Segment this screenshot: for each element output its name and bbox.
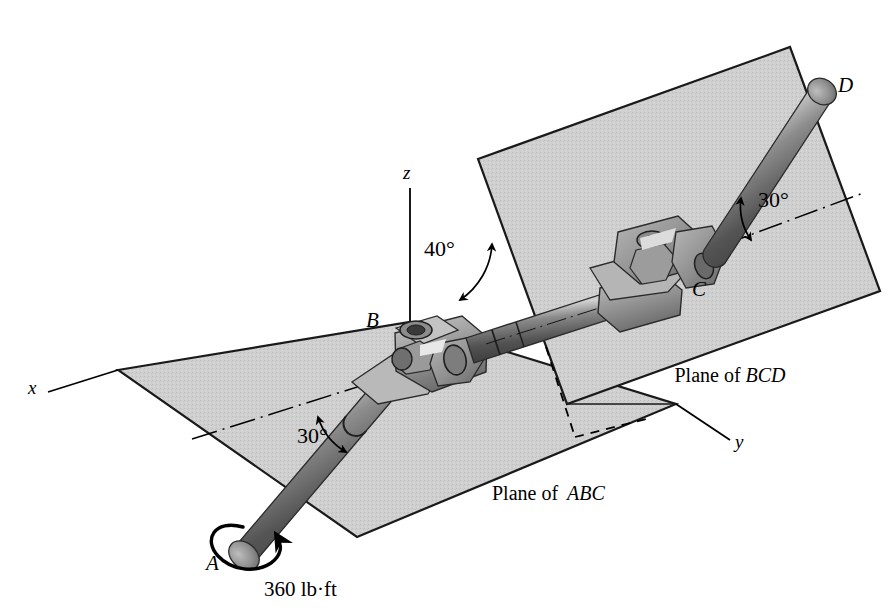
- angle-planes-label: 40°: [424, 236, 455, 261]
- figure-canvas: x z y: [0, 0, 895, 611]
- plane-bcd-caption-name: BCD: [746, 364, 787, 386]
- angle-planes-40: 40°: [424, 236, 492, 300]
- plane-abc-caption-name: ABC: [565, 482, 605, 504]
- angle-ab-label: 30°: [297, 423, 328, 448]
- torque-label-text: 360 lb·ft: [264, 577, 337, 601]
- plane-bcd-caption-prefix: Plane of: [674, 364, 745, 386]
- label-point-b: B: [366, 308, 379, 332]
- axis-z-label: z: [402, 162, 411, 183]
- label-point-c: C: [692, 277, 707, 301]
- torque-label: 360 lb·ft: [264, 577, 337, 601]
- plane-abc-caption-prefix: Plane of: [492, 482, 563, 504]
- angle-planes-arc: [460, 244, 492, 300]
- axis-x-label: x: [27, 377, 37, 398]
- angle-cd-label: 30°: [758, 187, 789, 212]
- axis-y-line: [676, 404, 730, 440]
- axis-y: y: [676, 404, 744, 452]
- axis-x-line: [48, 370, 118, 392]
- label-point-d: D: [837, 73, 853, 97]
- axis-z: z: [402, 162, 411, 322]
- mechanics-diagram: x z y: [0, 0, 895, 611]
- plane-abc-caption: Plane of ABC: [492, 482, 606, 504]
- plane-bcd-caption: Plane of BCD: [674, 364, 786, 386]
- axis-y-label: y: [733, 431, 744, 452]
- axis-x: x: [27, 370, 118, 398]
- joint-b-bearing-bore: [407, 325, 425, 335]
- joint-b-trunnion: [392, 348, 412, 370]
- label-point-a: A: [204, 551, 219, 575]
